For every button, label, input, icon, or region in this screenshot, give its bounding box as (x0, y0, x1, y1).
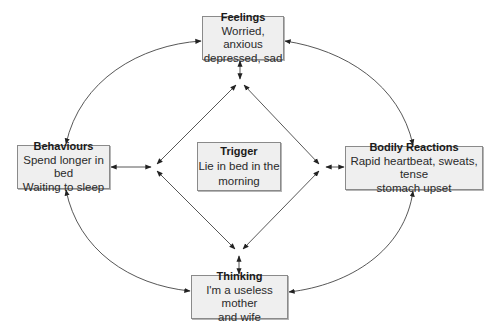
thinking-box: Thinking I'm a useless mother and wife (191, 275, 288, 319)
feelings-line1: Worried, anxious (203, 25, 283, 52)
bodily-reactions-title: Bodily Reactions (346, 141, 482, 155)
behaviours-line1: Spend longer in bed (18, 154, 109, 181)
trigger-box: Trigger Lie in bed in the morning (197, 142, 281, 191)
behaviours-title: Behaviours (18, 140, 109, 154)
trigger-line1: Lie in bed in the (198, 159, 280, 174)
thinking-title: Thinking (192, 270, 287, 284)
thinking-line1: I'm a useless mother (192, 284, 287, 311)
trigger-title: Trigger (198, 144, 280, 159)
arc-bodily-thinking (289, 191, 413, 292)
behaviours-line2: Waiting to sleep (18, 181, 109, 195)
bodily-reactions-line1: Rapid heartbeat, sweats, tense (346, 155, 482, 182)
thinking-line2: and wife (192, 311, 287, 325)
arc-behaviours-feelings (66, 41, 201, 144)
feelings-line2: depressed, sad (203, 52, 283, 66)
feelings-title: Feelings (203, 11, 283, 25)
bodily-reactions-line2: stomach upset (346, 182, 482, 196)
feelings-box: Feelings Worried, anxious depressed, sad (202, 16, 284, 60)
behaviours-box: Behaviours Spend longer in bed Waiting t… (17, 145, 110, 189)
bodily-reactions-box: Bodily Reactions Rapid heartbeat, sweats… (345, 146, 483, 190)
arc-behaviours-thinking (66, 190, 190, 291)
trigger-line2: morning (198, 174, 280, 189)
arc-feelings-bodily (285, 41, 413, 145)
